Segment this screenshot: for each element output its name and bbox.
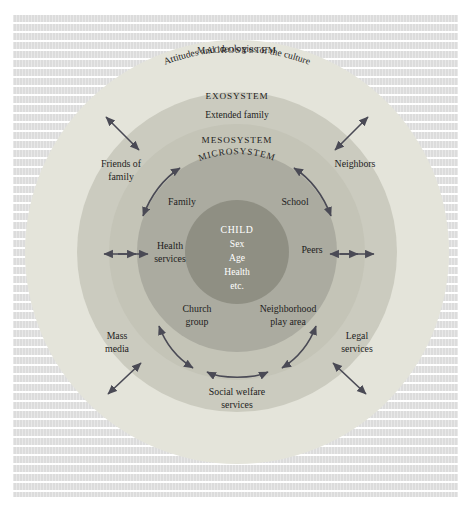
node-friends-of-family-line2: family xyxy=(108,171,134,182)
node-legal-services-line2: services xyxy=(341,343,373,354)
center-line-age: Age xyxy=(229,252,245,263)
node-family: Family xyxy=(168,196,196,207)
node-health-services: Health xyxy=(157,240,183,251)
label-exosystem-sub: Extended family xyxy=(205,109,269,120)
node-school: School xyxy=(281,196,308,207)
node-neighborhood-play-line2: play area xyxy=(270,316,306,327)
center-line-child: CHILD xyxy=(221,224,254,235)
label-mesosystem: MESOSYSTEM xyxy=(202,135,273,145)
node-mass-media: Mass xyxy=(107,330,128,341)
node-neighbors: Neighbors xyxy=(335,158,376,169)
label-exosystem: EXOSYSTEM xyxy=(205,91,268,101)
center-line-sex: Sex xyxy=(230,238,245,249)
center-line-health: Health xyxy=(224,266,250,277)
figure-canvas: MACROSYSTEM Attitudes and ideologies of … xyxy=(0,0,471,510)
center-line-etc: etc. xyxy=(230,280,244,291)
node-health-services-line2: services xyxy=(154,253,186,264)
node-peers: Peers xyxy=(301,244,322,255)
node-mass-media-line2: media xyxy=(105,343,130,354)
node-social-welfare: Social welfare xyxy=(209,386,266,397)
node-friends-of-family: Friends of xyxy=(101,158,142,169)
diagram-svg-wrapper: MACROSYSTEM Attitudes and ideologies of … xyxy=(0,0,471,510)
node-neighborhood-play: Neighborhood xyxy=(260,303,317,314)
node-church-group: Church xyxy=(183,303,212,314)
node-social-welfare-line2: services xyxy=(221,399,253,410)
node-legal-services: Legal xyxy=(346,330,369,341)
node-church-group-line2: group xyxy=(186,316,209,327)
